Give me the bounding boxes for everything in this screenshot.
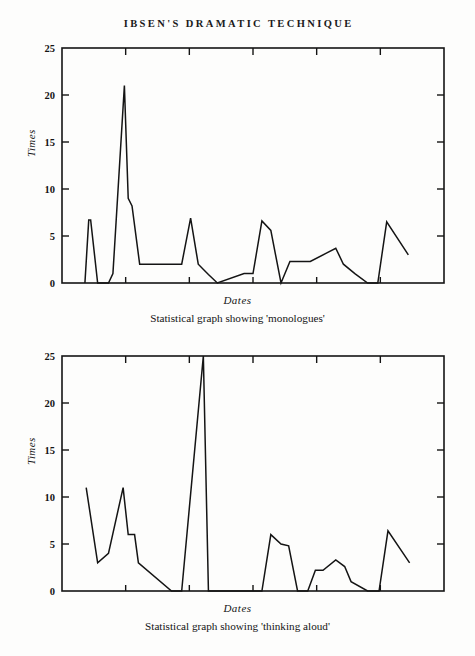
svg-text:5: 5	[50, 231, 55, 242]
x-axis-label: Dates	[0, 602, 475, 614]
line-chart-thinking-aloud: 18451855186518751885189519050510152025	[0, 348, 475, 596]
svg-text:1865: 1865	[179, 287, 200, 288]
figure-caption: Statistical graph showing 'monologues'	[0, 312, 475, 324]
svg-text:1855: 1855	[115, 287, 136, 288]
svg-text:20: 20	[45, 398, 56, 409]
page-canvas: IBSEN'S DRAMATIC TECHNIQUE 1845185518651…	[0, 0, 475, 656]
svg-text:1895: 1895	[370, 287, 391, 288]
x-axis-label: Dates	[0, 294, 475, 306]
y-axis-label: Times	[25, 143, 37, 157]
svg-text:20: 20	[45, 90, 56, 101]
svg-text:0: 0	[50, 586, 55, 596]
svg-text:10: 10	[45, 492, 56, 503]
svg-text:10: 10	[45, 184, 56, 195]
svg-text:5: 5	[50, 539, 55, 550]
svg-text:25: 25	[45, 351, 56, 362]
svg-text:1885: 1885	[306, 595, 327, 596]
svg-text:1855: 1855	[115, 595, 136, 596]
line-chart-monologues: 18451855186518751885189519050510152025	[0, 40, 475, 288]
page-title: IBSEN'S DRAMATIC TECHNIQUE	[0, 18, 475, 29]
svg-text:1885: 1885	[306, 287, 327, 288]
svg-text:1875: 1875	[243, 287, 264, 288]
svg-text:0: 0	[50, 278, 55, 288]
y-axis-label: Times	[25, 451, 37, 465]
svg-text:1865: 1865	[179, 595, 200, 596]
svg-text:1905: 1905	[434, 595, 455, 596]
figure-monologues: 18451855186518751885189519050510152025 T…	[0, 40, 475, 288]
svg-text:1905: 1905	[434, 287, 455, 288]
svg-text:15: 15	[45, 137, 56, 148]
figure-thinking-aloud: 18451855186518751885189519050510152025 T…	[0, 348, 475, 596]
chart-area-monologues: 18451855186518751885189519050510152025 T…	[0, 40, 475, 288]
svg-text:15: 15	[45, 445, 56, 456]
svg-text:25: 25	[45, 43, 56, 54]
svg-text:1875: 1875	[243, 595, 264, 596]
svg-text:1895: 1895	[370, 595, 391, 596]
figure-caption: Statistical graph showing 'thinking alou…	[0, 620, 475, 632]
chart-area-thinking-aloud: 18451855186518751885189519050510152025 T…	[0, 348, 475, 596]
